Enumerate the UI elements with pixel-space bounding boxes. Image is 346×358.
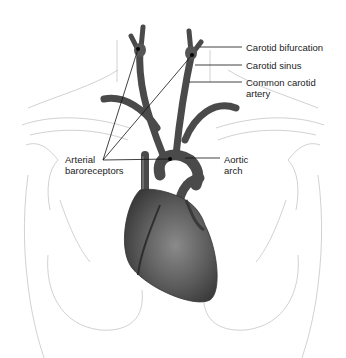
label-common-carotid-line1: Common carotid <box>246 77 316 88</box>
label-carotid-bifurcation: Carotid bifurcation <box>246 42 323 53</box>
label-arterial-line2: baroreceptors <box>65 165 124 176</box>
anatomy-diagram <box>0 0 346 358</box>
label-common-carotid-artery: Common carotid artery <box>246 77 316 99</box>
label-aortic-line2: arch <box>224 165 248 176</box>
heart <box>124 189 217 302</box>
label-arterial-line1: Arterial <box>65 154 124 165</box>
label-common-carotid-line2: artery <box>246 88 316 99</box>
label-carotid-sinus: Carotid sinus <box>246 60 301 71</box>
label-aortic-line1: Aortic <box>224 154 248 165</box>
great-vessels <box>104 27 236 215</box>
label-arterial-baroreceptors: Arterial baroreceptors <box>65 154 124 176</box>
label-aortic-arch: Aortic arch <box>224 154 248 176</box>
